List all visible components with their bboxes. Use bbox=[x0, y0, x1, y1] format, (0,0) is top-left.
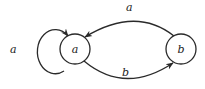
edge-a-to-b-label: b bbox=[122, 66, 129, 79]
node-a-label: a bbox=[72, 43, 79, 56]
node-a: a bbox=[60, 34, 90, 64]
edge-b-to-a: a bbox=[85, 1, 174, 37]
node-b-label: b bbox=[177, 43, 184, 56]
self-loop-label: a bbox=[10, 43, 17, 56]
edge-self-loop-a: a bbox=[10, 30, 68, 74]
edge-b-to-a-label: a bbox=[126, 1, 133, 14]
diagram-canvas: a a b a b bbox=[0, 0, 205, 89]
node-b: b bbox=[166, 34, 196, 64]
edge-a-to-b: b bbox=[84, 61, 173, 79]
arc-top-arrow bbox=[85, 21, 174, 37]
state-diagram: a a b a b bbox=[0, 0, 205, 89]
